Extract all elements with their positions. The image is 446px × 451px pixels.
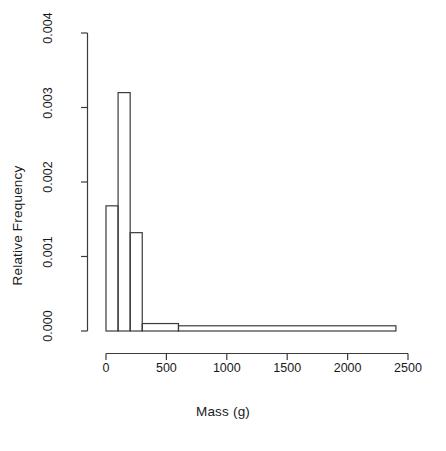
y-axis-ticks <box>81 33 88 331</box>
y-tick-label-0.004: 0.004 <box>41 0 55 58</box>
axis-lines <box>88 33 409 354</box>
x-tick-label-2500: 2500 <box>378 361 438 375</box>
y-tick-label-0.001: 0.001 <box>41 222 55 282</box>
x-tick-label-2000: 2000 <box>318 361 378 375</box>
histogram-bar <box>118 93 130 331</box>
y-axis-title: Relative Frequency <box>6 0 30 451</box>
x-tick-label-0: 0 <box>76 361 136 375</box>
y-tick-label-0.003: 0.003 <box>41 73 55 133</box>
x-tick-label-1000: 1000 <box>197 361 257 375</box>
x-axis-title: Mass (g) <box>0 404 446 419</box>
y-tick-label-0.000: 0.000 <box>41 296 55 356</box>
x-tick-label-1500: 1500 <box>257 361 317 375</box>
x-axis-ticks <box>106 354 408 361</box>
histogram-bars <box>106 93 396 331</box>
histogram-bar <box>106 206 118 331</box>
x-tick-label-500: 500 <box>136 361 196 375</box>
y-tick-label-0.002: 0.002 <box>41 147 55 207</box>
plot-area <box>0 0 446 451</box>
histogram-bar <box>142 324 178 331</box>
histogram-bar <box>178 326 395 331</box>
histogram-figure: 0.004 0.003 0.002 0.001 0.000 0 500 1000… <box>0 0 446 451</box>
histogram-bar <box>130 233 142 331</box>
